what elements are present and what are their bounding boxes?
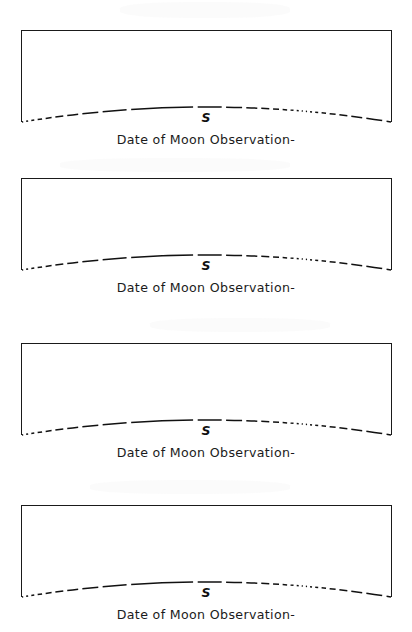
panel-caption: Date of Moon Observation- [0, 281, 412, 295]
sky-box[interactable] [21, 343, 392, 435]
direction-label-south: S [0, 260, 412, 273]
direction-label-south: S [0, 425, 412, 438]
moon-observation-worksheet: S Date of Moon Observation- S Date of Mo… [0, 0, 412, 632]
sky-box[interactable] [21, 30, 392, 122]
direction-label-south: S [0, 112, 412, 125]
sky-box[interactable] [21, 178, 392, 270]
scan-smudge [90, 480, 290, 494]
panel-caption: Date of Moon Observation- [0, 446, 412, 460]
scan-smudge [60, 158, 290, 172]
panel-caption: Date of Moon Observation- [0, 608, 412, 622]
panel-caption: Date of Moon Observation- [0, 133, 412, 147]
scan-smudge [120, 2, 290, 18]
direction-label-south: S [0, 587, 412, 600]
sky-box[interactable] [21, 505, 392, 597]
scan-smudge [150, 318, 330, 332]
